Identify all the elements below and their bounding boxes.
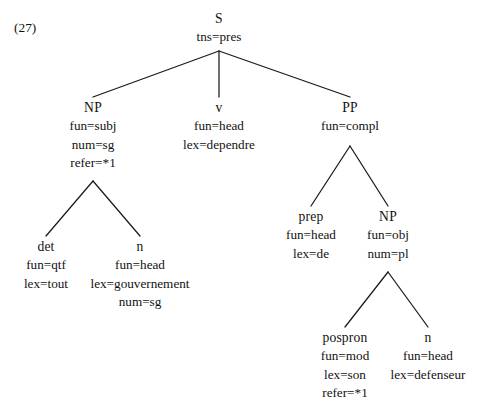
node-pospron-label: pospron bbox=[321, 329, 369, 347]
node-np-object-attr-num: num=pl bbox=[367, 245, 409, 263]
node-s-label: S bbox=[197, 10, 242, 28]
node-pp-label: PP bbox=[321, 99, 379, 117]
node-verb: v fun=head lex=dependre bbox=[183, 99, 255, 154]
node-noun-object-attr-fun: fun=head bbox=[391, 347, 466, 365]
syntax-tree-figure: (27) S tns=pres NP fun=subj num=sg refer… bbox=[0, 0, 482, 417]
node-np-object-label: NP bbox=[367, 208, 409, 226]
edge-npobj-to-n bbox=[388, 272, 428, 327]
node-verb-attr-lex: lex=dependre bbox=[183, 136, 255, 154]
edge-npobj-to-pospron bbox=[345, 272, 388, 327]
node-prep: prep fun=head lex=de bbox=[286, 208, 336, 263]
node-np-subject-attr-refer: refer=*1 bbox=[70, 154, 117, 172]
edge-np-to-n bbox=[93, 181, 140, 236]
node-noun-object: n fun=head lex=defenseur bbox=[391, 329, 466, 384]
node-pospron-attr-fun: fun=mod bbox=[321, 347, 369, 365]
node-s: S tns=pres bbox=[197, 10, 242, 47]
node-pospron: pospron fun=mod lex=son refer=*1 bbox=[321, 329, 369, 403]
edge-pp-to-prep bbox=[311, 146, 350, 206]
edge-s-to-pp bbox=[219, 51, 350, 97]
edge-pp-to-np bbox=[350, 146, 388, 206]
node-noun-subject-label: n bbox=[91, 238, 190, 256]
node-det-label: det bbox=[24, 238, 68, 256]
node-verb-label: v bbox=[183, 99, 255, 117]
example-number: (27) bbox=[14, 20, 36, 36]
node-det-attr-fun: fun=qtf bbox=[24, 256, 68, 274]
node-noun-object-attr-lex: lex=defenseur bbox=[391, 366, 466, 384]
node-prep-attr-fun: fun=head bbox=[286, 226, 336, 244]
node-np-subject-attr-fun: fun=subj bbox=[70, 117, 117, 135]
node-np-object-attr-fun: fun=obj bbox=[367, 226, 409, 244]
node-s-attr-tns: tns=pres bbox=[197, 28, 242, 46]
node-pp-attr-fun: fun=compl bbox=[321, 117, 379, 135]
node-prep-attr-lex: lex=de bbox=[286, 245, 336, 263]
node-noun-subject-attr-lex: lex=gouvernement bbox=[91, 275, 190, 293]
node-prep-label: prep bbox=[286, 208, 336, 226]
node-np-subject-attr-num: num=sg bbox=[70, 136, 117, 154]
node-det: det fun=qtf lex=tout bbox=[24, 238, 68, 293]
edge-np-to-det bbox=[46, 181, 93, 236]
node-np-subject-label: NP bbox=[70, 99, 117, 117]
node-noun-object-label: n bbox=[391, 329, 466, 347]
node-det-attr-lex: lex=tout bbox=[24, 275, 68, 293]
node-np-object: NP fun=obj num=pl bbox=[367, 208, 409, 263]
node-pospron-attr-refer: refer=*1 bbox=[321, 384, 369, 402]
node-pospron-attr-lex: lex=son bbox=[321, 366, 369, 384]
edge-s-to-np bbox=[93, 51, 219, 97]
node-noun-subject-attr-fun: fun=head bbox=[91, 256, 190, 274]
node-noun-subject-attr-num: num=sg bbox=[91, 293, 190, 311]
node-noun-subject: n fun=head lex=gouvernement num=sg bbox=[91, 238, 190, 312]
node-np-subject: NP fun=subj num=sg refer=*1 bbox=[70, 99, 117, 173]
node-pp: PP fun=compl bbox=[321, 99, 379, 136]
node-verb-attr-fun: fun=head bbox=[183, 117, 255, 135]
